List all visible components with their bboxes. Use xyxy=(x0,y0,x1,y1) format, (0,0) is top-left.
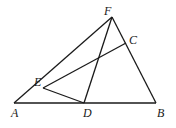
label-point-B: B xyxy=(157,106,165,120)
geometry-diagram: A B C D E F xyxy=(0,0,176,128)
segment-FB xyxy=(112,17,156,103)
label-point-D: D xyxy=(82,106,92,120)
label-point-E: E xyxy=(33,75,42,89)
segment-ED xyxy=(43,88,84,103)
label-point-C: C xyxy=(129,33,138,47)
segment-AF xyxy=(14,17,112,103)
segment-EC xyxy=(43,43,126,88)
label-point-F: F xyxy=(103,4,112,18)
label-point-A: A xyxy=(10,106,19,120)
